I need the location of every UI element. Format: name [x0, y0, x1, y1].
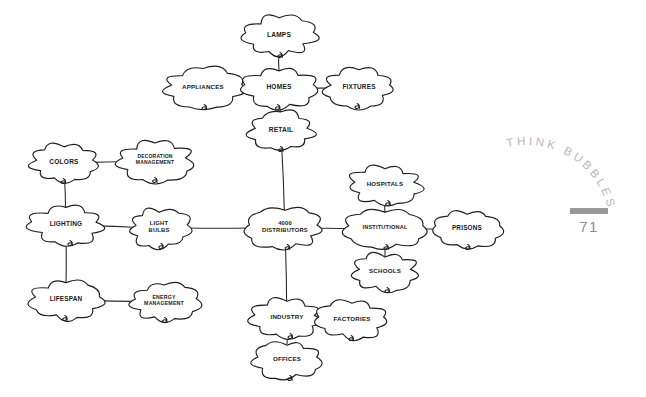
bubble-node-decoration[interactable]: DECORATIONMANAGEMENT	[115, 140, 194, 184]
diagram-canvas: LAMPSAPPLIANCESHOMESFIXTURESRETAILCOLORS…	[0, 0, 646, 397]
bubble-label-decoration: DECORATIONMANAGEMENT	[136, 153, 174, 165]
bubble-node-lifespan[interactable]: LIFESPAN	[28, 280, 105, 321]
bubble-node-industry[interactable]: INDUSTRY	[248, 298, 322, 340]
bubble-label-line: COLORS	[49, 158, 79, 165]
bubble-label-factories: FACTORIES	[333, 314, 370, 321]
bubble-label-line: HOMES	[266, 83, 292, 90]
bubble-label-line: ENERGY	[152, 294, 175, 300]
bubble-label-homes: HOMES	[266, 83, 292, 90]
bubble-label-appliances: APPLIANCES	[182, 82, 224, 89]
bubble-label-schools: SCHOOLS	[369, 266, 401, 273]
bubble-node-colors[interactable]: COLORS	[28, 143, 98, 183]
section-label-textpath: THINK BUBBLES	[505, 135, 618, 211]
bubble-label-line: LIFESPAN	[50, 294, 83, 301]
bubble-label-offices: OFFICES	[273, 354, 301, 361]
bubble-label-line: DISTRIBUTORS	[262, 227, 308, 233]
bubble-label-retail: RETAIL	[269, 126, 294, 133]
bubble-label-line: 4000	[278, 220, 292, 226]
bubble-node-hospitals[interactable]: HOSPITALS	[349, 165, 424, 206]
connector-distributors-to-industry	[285, 245, 286, 302]
bubble-node-retail[interactable]: RETAIL	[246, 110, 316, 152]
bubble-node-homes[interactable]: HOMES	[241, 68, 318, 110]
bubble-label-prisons: PRISONS	[452, 223, 483, 230]
bubble-label-lifespan: LIFESPAN	[50, 294, 83, 301]
bubble-label-line: INDUSTRY	[271, 312, 305, 319]
bubble-label-line: LAMPS	[267, 31, 291, 38]
bubble-label-lighting: LIGHTING	[50, 220, 83, 227]
page-number-rule	[570, 208, 608, 214]
bubble-label-line: FIXTURES	[342, 82, 376, 89]
bubble-label-line: MANAGEMENT	[144, 300, 184, 306]
bubble-node-lamps[interactable]: LAMPS	[241, 15, 319, 58]
bubble-label-lamps: LAMPS	[267, 31, 291, 38]
page-number: 71	[568, 218, 610, 235]
bubble-label-line: PRISONS	[452, 223, 483, 230]
bubble-label-line: FACTORIES	[333, 314, 370, 321]
bubble-node-lightbulbs[interactable]: LIGHTBULBS	[130, 208, 192, 250]
bubble-node-prisons[interactable]: PRISONS	[433, 211, 504, 250]
section-label-text: THINK BUBBLES	[505, 135, 618, 211]
bubble-label-lightbulbs: LIGHTBULBS	[149, 220, 170, 233]
bubble-label-line: RETAIL	[269, 126, 294, 133]
bubble-node-lighting[interactable]: LIGHTING	[26, 205, 105, 246]
bubble-label-industry: INDUSTRY	[271, 312, 305, 319]
bubble-label-line: BULBS	[149, 227, 170, 233]
bubble-label-line: LIGHT	[150, 220, 169, 226]
bubble-label-line: DECORATION	[137, 153, 172, 159]
bubble-node-institutional[interactable]: INSTITUTIONAL	[342, 209, 427, 249]
bubble-node-fixtures[interactable]: FIXTURES	[322, 67, 393, 110]
bubble-label-institutional: INSTITUTIONAL	[362, 224, 408, 230]
bubble-node-factories[interactable]: FACTORIES	[315, 300, 387, 341]
bubble-label-line: OFFICES	[273, 354, 301, 361]
bubble-label-hospitals: HOSPITALS	[367, 179, 404, 186]
bubble-label-line: SCHOOLS	[369, 266, 401, 273]
bubble-label-line: INSTITUTIONAL	[362, 224, 408, 230]
bubble-label-line: MANAGEMENT	[136, 159, 174, 165]
bubble-label-line: HOSPITALS	[367, 179, 404, 186]
bubble-label-line: APPLIANCES	[182, 82, 224, 89]
bubble-label-fixtures: FIXTURES	[342, 82, 376, 89]
bubble-label-line: LIGHTING	[50, 220, 83, 227]
bubble-label-colors: COLORS	[49, 158, 79, 165]
bubble-node-energy[interactable]: ENERGYMANAGEMENT	[129, 282, 202, 322]
bubble-node-distributors[interactable]: 4000DISTRIBUTORS	[244, 207, 322, 250]
connector-retail-to-distributors	[282, 147, 285, 211]
bubble-node-appliances[interactable]: APPLIANCES	[162, 66, 246, 109]
bubble-node-schools[interactable]: SCHOOLS	[351, 252, 418, 292]
node-layer: LAMPSAPPLIANCESHOMESFIXTURESRETAILCOLORS…	[26, 15, 504, 381]
bubble-node-offices[interactable]: OFFICES	[251, 342, 322, 381]
